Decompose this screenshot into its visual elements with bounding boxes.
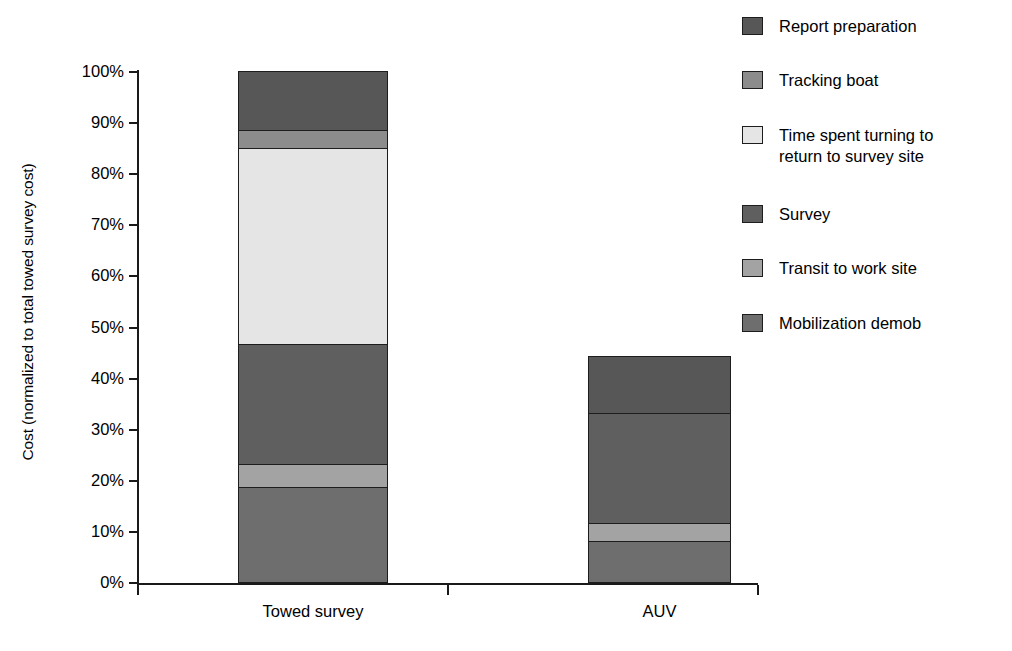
y-axis-tick-label: 60%: [46, 267, 124, 283]
legend-item[interactable]: Survey: [742, 204, 830, 225]
stacked-bar-chart: Cost (normalized to total towed survey c…: [0, 0, 1012, 651]
legend-swatch-icon: [742, 126, 763, 144]
legend-item[interactable]: Report preparation: [742, 16, 917, 37]
plot-area: [137, 72, 756, 583]
x-axis-category-label: Towed survey: [213, 602, 413, 621]
legend-label: Report preparation: [779, 16, 917, 37]
legend-label: Transit to work site: [779, 258, 917, 279]
y-axis-tick-label: 70%: [46, 216, 124, 232]
bar-segment[interactable]: [588, 523, 731, 542]
legend-item[interactable]: Tracking boat: [742, 70, 878, 91]
y-axis-tick-label: 80%: [46, 165, 124, 181]
y-axis-tick-label: 40%: [46, 370, 124, 386]
bar-segment[interactable]: [588, 356, 731, 415]
y-axis-tick-label: 50%: [46, 319, 124, 335]
x-axis-category-label: AUV: [560, 602, 760, 621]
bar-auv[interactable]: [588, 357, 731, 583]
y-axis-tick-labels: 100%90%80%70%60%50%40%30%20%10%0%: [40, 0, 124, 651]
y-axis-tick-label: 90%: [46, 114, 124, 130]
legend-label: Survey: [779, 204, 830, 225]
bar-segment[interactable]: [238, 71, 388, 131]
y-axis-tick-label: 100%: [46, 63, 124, 79]
legend-label: Tracking boat: [779, 70, 878, 91]
y-axis-tick-label: 30%: [46, 421, 124, 437]
legend-label: Mobilization demob: [779, 313, 921, 334]
bar-segment[interactable]: [238, 464, 388, 488]
x-axis-tick: [137, 585, 139, 595]
legend-item[interactable]: Mobilization demob: [742, 313, 921, 334]
x-axis-tick: [447, 585, 449, 595]
legend-swatch-icon: [742, 205, 763, 223]
bar-segment[interactable]: [238, 487, 388, 583]
legend-item[interactable]: Transit to work site: [742, 258, 917, 279]
legend-swatch-icon: [742, 71, 763, 89]
bar-segment[interactable]: [588, 541, 731, 583]
legend-item[interactable]: Time spent turning to return to survey s…: [742, 125, 933, 167]
bar-segment[interactable]: [588, 413, 731, 524]
bar-towed-survey[interactable]: [238, 72, 388, 583]
y-axis-tick-label: 20%: [46, 472, 124, 488]
legend-swatch-icon: [742, 314, 763, 332]
legend-swatch-icon: [742, 259, 763, 277]
y-axis-tick-label: 10%: [46, 523, 124, 539]
legend-label: Time spent turning to return to survey s…: [779, 125, 933, 167]
bar-segment[interactable]: [238, 130, 388, 149]
y-axis-title: Cost (normalized to total towed survey c…: [19, 92, 37, 532]
y-axis-tick-label: 0%: [46, 574, 124, 590]
bar-segment[interactable]: [238, 344, 388, 465]
legend-swatch-icon: [742, 17, 763, 35]
bar-segment[interactable]: [238, 148, 388, 346]
x-axis-tick: [757, 585, 759, 595]
